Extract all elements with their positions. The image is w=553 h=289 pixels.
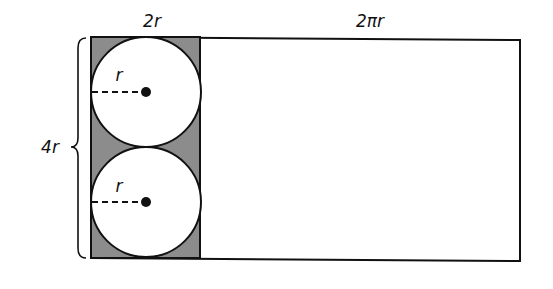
bottom-center-dot	[141, 197, 151, 207]
shaded-width-label: 2r	[143, 11, 162, 31]
top-radius-label: r	[116, 65, 124, 85]
height-brace	[71, 38, 86, 258]
cylinder-net-diagram: 2r 2πr 4r r r	[0, 0, 553, 289]
top-center-dot	[141, 87, 151, 97]
height-label: 4r	[41, 137, 60, 157]
bottom-radius-label: r	[116, 176, 124, 196]
rectangle-width-label: 2πr	[356, 11, 385, 31]
